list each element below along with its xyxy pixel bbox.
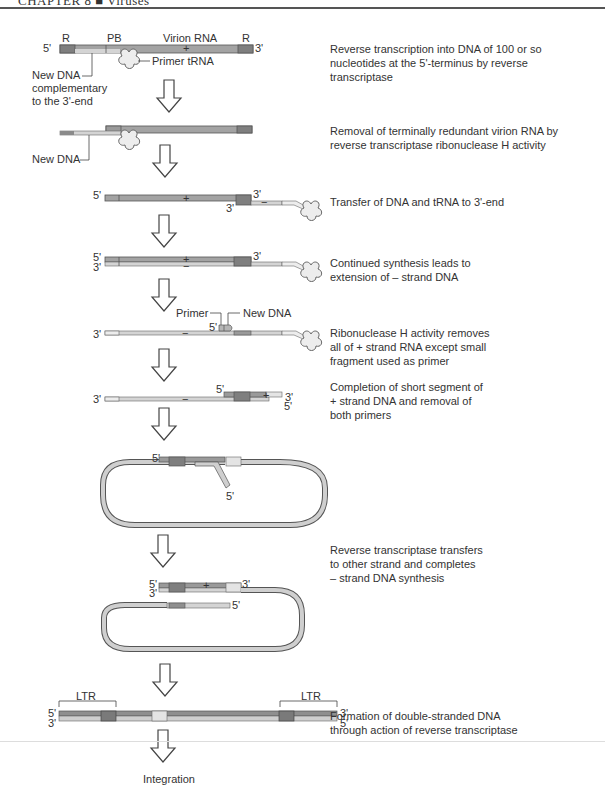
step6-diagram: 3' − 5' + 3' 5': [93, 383, 293, 412]
plus-label: +: [183, 192, 189, 204]
three-prime-label: 3': [93, 328, 101, 340]
three-prime-left-label: 3': [93, 393, 101, 405]
five-prime-label: 5': [43, 42, 51, 54]
plus-label: +: [203, 579, 209, 591]
primer-label: Primer: [176, 307, 209, 319]
three-prime-right-label: 3': [242, 578, 250, 590]
five-prime-label: 5': [209, 321, 217, 333]
r-left-label: R: [62, 32, 70, 44]
primer-trna-label: Primer tRNA: [152, 55, 214, 67]
step9-dsdna-diagram: LTR LTR 5' 3' 3' 5': [48, 690, 348, 729]
trna-icon: [301, 201, 322, 220]
plus-label: +: [183, 42, 189, 54]
step8-circle-diagram: 5' 3' + 3' 5': [104, 578, 302, 649]
down-arrow-icon: [152, 215, 176, 247]
five-prime-bottom-label: 5': [284, 400, 292, 412]
ltr-right-label: LTR: [301, 690, 321, 702]
primer-trna-icon: [119, 49, 140, 68]
ltr-left-label: LTR: [76, 690, 96, 702]
divider: [0, 741, 605, 742]
five-prime-label: 5': [93, 189, 101, 201]
step7-circle-diagram: 5' 5': [103, 452, 325, 525]
new-dna-label: New DNA: [32, 153, 81, 165]
step5-diagram: Primer New DNA 5' 3' −: [93, 307, 322, 351]
minus-label: −: [183, 260, 189, 272]
new-dna-label-line3: to the 3'-end: [32, 95, 93, 107]
step8-description: Reverse transcriptase transfers to other…: [330, 543, 590, 585]
down-arrow-icon: [153, 664, 177, 696]
down-arrow-icon: [151, 535, 175, 567]
three-prime-left-label: 3': [93, 261, 101, 273]
minus-label: −: [182, 393, 188, 405]
five-prime-top-label: 5': [216, 383, 224, 395]
step6-description: Completion of short segment of + strand …: [330, 380, 590, 422]
trna-icon: [301, 262, 322, 281]
step3-diagram: 5' + 3' 3' −: [93, 188, 322, 221]
new-dna-label: New DNA: [32, 69, 81, 81]
integration-label: Integration: [143, 773, 195, 785]
r-right-label: R: [242, 32, 250, 44]
three-prime-label: 3': [255, 42, 263, 54]
down-arrow-icon: [157, 80, 181, 112]
step1-description: Reverse transcription into DNA of 100 or…: [330, 42, 590, 84]
down-arrow-icon: [152, 349, 176, 381]
down-arrow-icon: [152, 279, 176, 311]
plus-label: +: [263, 389, 269, 401]
five-prime-tail-label: 5': [226, 490, 234, 502]
new-dna-label: New DNA: [243, 307, 292, 319]
three-prime-right-label: 3': [253, 250, 261, 262]
down-arrow-icon: [152, 408, 176, 440]
five-prime-inner-label: 5': [232, 599, 240, 611]
step4-diagram: 5' 3' + − 3': [93, 250, 322, 282]
step1-diagram: 5' R PB Virion RNA + R 3' Primer tRNA Ne…: [32, 32, 263, 107]
three-prime-left-label: 3': [48, 717, 56, 729]
step3-description: Transfer of DNA and tRNA to 3'-end: [330, 195, 590, 209]
trna-icon: [301, 331, 322, 350]
three-prime-top-label: 3': [253, 188, 261, 200]
pb-label: PB: [107, 32, 122, 44]
minus-label: −: [261, 196, 267, 208]
minus-label: −: [182, 327, 188, 339]
down-arrow-icon: [151, 730, 175, 762]
virion-rna-label: Virion RNA: [163, 32, 218, 44]
down-arrow-icon: [153, 145, 177, 177]
step2-diagram: New DNA: [32, 126, 252, 165]
step9-description: Formation of double-stranded DNA through…: [330, 709, 590, 737]
step4-description: Continued synthesis leads to extension o…: [330, 256, 590, 284]
three-prime-bottom-label: 3': [226, 202, 234, 214]
three-prime-left-label: 3': [149, 587, 157, 599]
trna-icon: [119, 130, 140, 149]
new-dna-label-line2: complementary: [32, 82, 108, 94]
step5-description: Ribonuclease H activity removes all of +…: [330, 326, 590, 368]
five-prime-top-label: 5': [152, 452, 160, 464]
step2-description: Removal of terminally redundant virion R…: [330, 124, 590, 152]
